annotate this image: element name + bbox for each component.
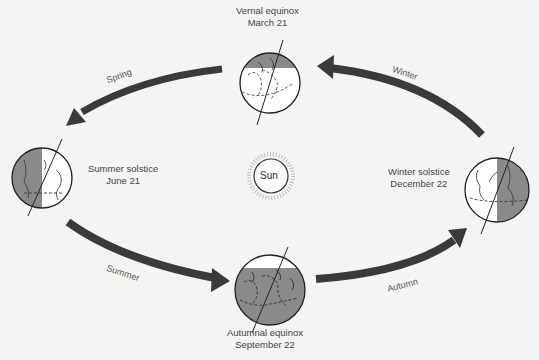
earth-summer-solstice (10, 139, 72, 216)
earth-vernal-equinox (238, 40, 302, 125)
vernal-equinox-label: Vernal equinox March 21 (236, 5, 299, 29)
autumnal-equinox-label: Autumnal equinox September 22 (227, 327, 303, 351)
earth-autumnal-equinox (234, 247, 306, 333)
position-name: Winter solstice (388, 166, 450, 178)
spring-arrow (66, 69, 222, 126)
position-name: Summer solstice (88, 163, 158, 175)
sun-label: Sun (260, 170, 278, 181)
position-date: March 21 (236, 17, 299, 29)
earth-winter-solstice (465, 147, 531, 234)
position-date: September 22 (227, 339, 303, 351)
position-name: Vernal equinox (236, 5, 299, 17)
autumn-arrow (316, 228, 467, 279)
position-date: June 21 (88, 175, 158, 187)
position-name: Autumnal equinox (227, 327, 303, 339)
position-date: December 22 (388, 178, 450, 190)
summer-solstice-label: Summer solstice June 21 (88, 163, 158, 187)
summer-arrow (68, 222, 230, 292)
winter-solstice-label: Winter solstice December 22 (388, 166, 450, 190)
